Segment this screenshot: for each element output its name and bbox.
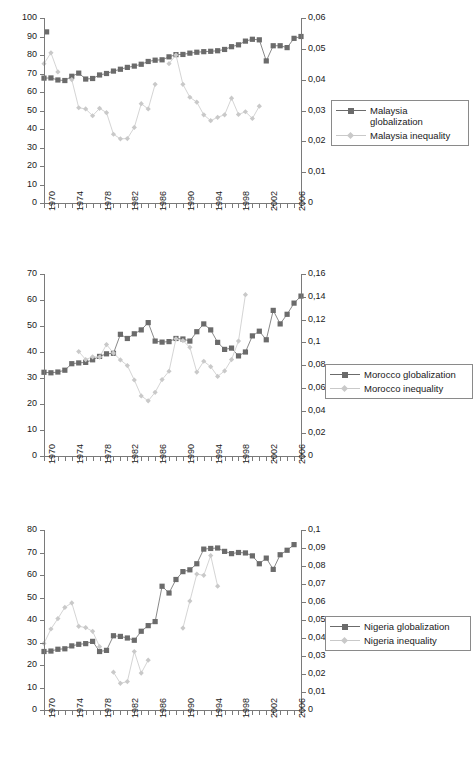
data-point-square: [236, 353, 241, 358]
y-tick-right: [302, 674, 306, 675]
data-point-diamond: [194, 100, 199, 105]
x-tick: [113, 711, 114, 715]
x-tick: [58, 204, 59, 208]
x-tick: [148, 711, 149, 715]
y-tick-label-left: 80: [4, 525, 37, 534]
data-point-square: [104, 648, 109, 653]
legend-label: Morocco inequality: [364, 383, 443, 394]
plot-svg-morocco: [44, 274, 301, 456]
x-tick-label-year: 1994: [215, 698, 224, 718]
y-tick-label-left: 70: [4, 269, 37, 278]
y-tick-right: [302, 18, 306, 19]
x-tick: [141, 711, 142, 715]
data-point-square: [83, 641, 88, 646]
x-tick: [44, 711, 45, 715]
plot-area-nigeria: [44, 530, 301, 710]
x-tick: [148, 457, 149, 461]
data-point-diamond: [118, 136, 123, 141]
data-point-square: [118, 634, 123, 639]
y-tick-label-left: 50: [4, 321, 37, 330]
y-tick-left: [40, 18, 44, 19]
y-tick-left: [40, 575, 44, 576]
x-tick-label-year: 1982: [131, 444, 140, 464]
x-tick: [287, 204, 288, 208]
x-tick: [211, 457, 212, 461]
data-point-square: [69, 643, 74, 648]
x-tick: [259, 204, 260, 208]
data-point-diamond: [187, 599, 192, 604]
legend-malaysia: Malaysia globalizationMalaysia inequalit…: [331, 100, 469, 146]
data-point-diamond: [236, 339, 241, 344]
data-point-square: [146, 320, 151, 325]
y-tick-label-right: 0,06: [308, 13, 348, 22]
data-point-square: [97, 72, 102, 77]
series-line: [113, 652, 148, 684]
x-tick: [148, 204, 149, 208]
data-point-square: [201, 547, 206, 552]
y-tick-left: [40, 688, 44, 689]
x-tick: [86, 204, 87, 208]
x-tick: [266, 711, 267, 715]
data-point-square: [215, 340, 220, 345]
y-tick-right: [302, 342, 306, 343]
data-point-diamond: [125, 136, 130, 141]
y-tick-left: [40, 111, 44, 112]
x-tick-label-year: 1970: [48, 698, 57, 718]
data-point-square: [250, 553, 255, 558]
x-tick: [176, 204, 177, 208]
data-point-square: [291, 36, 296, 41]
x-tick-label-year: 1978: [104, 698, 113, 718]
legend-diamond-marker-icon: [330, 635, 360, 646]
legend-diamond-marker-icon: [330, 383, 360, 394]
data-point-square: [139, 62, 144, 67]
y-tick-label-left: 70: [4, 548, 37, 557]
y-tick-label-right: 0: [308, 451, 348, 460]
x-tick: [280, 457, 281, 461]
data-point-square: [118, 67, 123, 72]
data-point-square: [76, 642, 81, 647]
data-point-square: [166, 339, 171, 344]
y-tick-label-right: 0,07: [308, 579, 348, 588]
data-point-square: [76, 71, 81, 76]
x-tick: [65, 711, 66, 715]
data-point-square: [104, 351, 109, 356]
y-tick-right: [302, 274, 306, 275]
x-tick: [238, 711, 239, 715]
x-tick: [294, 204, 295, 208]
data-point-square: [139, 629, 144, 634]
data-point-diamond: [194, 369, 199, 374]
data-point-square: [97, 649, 102, 654]
y-tick-label-left: 50: [4, 593, 37, 602]
series-line: [44, 296, 301, 373]
x-tick: [100, 711, 101, 715]
x-tick-label-year: 1978: [104, 444, 113, 464]
data-point-square: [180, 569, 185, 574]
x-tick: [169, 457, 170, 461]
y-tick-left: [40, 148, 44, 149]
x-tick: [72, 711, 73, 715]
data-point-square: [187, 51, 192, 56]
x-tick: [211, 711, 212, 715]
x-tick: [44, 204, 45, 208]
x-tick: [197, 204, 198, 208]
data-point-diamond: [153, 82, 158, 87]
data-point-diamond: [76, 624, 81, 629]
data-point-square: [153, 619, 158, 624]
data-point-diamond: [139, 671, 144, 676]
data-point-diamond: [62, 605, 67, 610]
x-tick-label-year: 1990: [187, 191, 196, 211]
y-tick-label-right: 0,12: [308, 315, 348, 324]
x-tick: [232, 711, 233, 715]
y-tick-label-left: 0: [4, 705, 37, 714]
y-tick-label-right: 0,04: [308, 75, 348, 84]
x-tick-label-year: 1974: [76, 444, 85, 464]
y-tick-label-left: 20: [4, 660, 37, 669]
y-tick-label-right: 0,02: [308, 428, 348, 437]
data-point-square: [159, 57, 164, 62]
legend-square-marker-icon: [330, 621, 360, 632]
x-tick: [155, 457, 156, 461]
y-tick-label-right: 0,09: [308, 543, 348, 552]
data-point-square: [222, 347, 227, 352]
data-point-square: [236, 42, 241, 47]
data-point-square: [264, 337, 269, 342]
